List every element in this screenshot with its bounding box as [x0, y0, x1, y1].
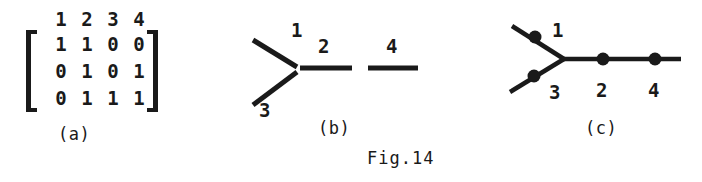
panel-caption-c: (c)	[585, 118, 617, 138]
matrix-column-headers: 1 2 3 4	[48, 8, 152, 30]
matrix-cell: 0	[126, 31, 152, 58]
matrix-cell: 0	[100, 58, 126, 85]
matrix-cell: 1	[74, 31, 100, 58]
matrix-cell: 1	[126, 58, 152, 85]
panel-caption-b: (b)	[318, 118, 350, 138]
graph-label-3: 3	[549, 82, 560, 102]
matrix-body: 1 1 0 0 0 1 0 1 0 1 1 1	[26, 30, 158, 112]
segment-label-1: 1	[291, 20, 302, 40]
matrix-row: 1 1 0 0	[48, 31, 152, 58]
graph-node-3	[528, 70, 541, 83]
figure-caption: Fig.14	[367, 148, 434, 168]
matrix-column-header: 1	[48, 8, 74, 30]
matrix-cell: 1	[48, 31, 74, 58]
matrix-cell: 0	[48, 58, 74, 85]
matrix-cell: 1	[74, 58, 100, 85]
graph-label-4: 4	[648, 80, 659, 100]
segment-label-2: 2	[318, 36, 329, 56]
matrix-rows: 1 1 0 0 0 1 0 1 0 1 1 1	[48, 31, 152, 112]
matrix-column-header: 2	[74, 8, 100, 30]
graph-label-1: 1	[552, 20, 563, 40]
panel-a-matrix: 1 2 3 4 1 1 0 0 0 1 0 1	[20, 4, 190, 154]
matrix-cell: 0	[100, 31, 126, 58]
graph-label-2: 2	[596, 80, 607, 100]
matrix-cell: 0	[48, 85, 74, 112]
matrix-cell: 1	[74, 85, 100, 112]
matrix-row: 0 1 0 1	[48, 58, 152, 85]
matrix-cell: 1	[126, 85, 152, 112]
panel-caption-a: (a)	[58, 124, 90, 144]
segment-label-3: 3	[259, 100, 270, 120]
figure-14: 1 2 3 4 1 1 0 0 0 1 0 1	[0, 0, 702, 182]
segment-label-4: 4	[386, 36, 397, 56]
matrix-column-header: 3	[100, 8, 126, 30]
graph-node-4	[649, 53, 662, 66]
matrix-row: 0 1 1 1	[48, 85, 152, 112]
matrix-left-bracket	[26, 30, 37, 112]
segment-1-line	[253, 40, 297, 67]
graph-node-1	[529, 31, 542, 44]
matrix-cell: 1	[100, 85, 126, 112]
graph-node-2	[597, 53, 610, 66]
matrix-column-header: 4	[126, 8, 152, 30]
